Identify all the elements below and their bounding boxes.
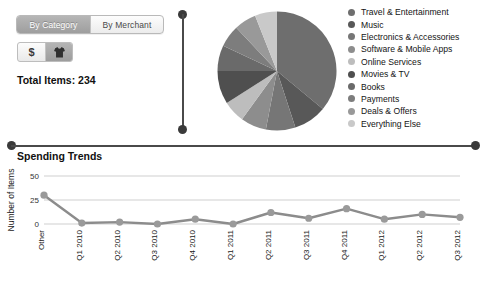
data-point-marker[interactable]	[381, 216, 388, 223]
x-tick-label: Q3 2011	[302, 229, 311, 260]
y-tick-label: 25	[30, 196, 39, 205]
legend-item-label: Books	[361, 82, 385, 92]
legend-swatch-icon	[348, 108, 355, 115]
legend-swatch-icon	[348, 83, 355, 90]
x-tick-label: Q1 2011	[226, 229, 235, 260]
data-point-marker[interactable]	[267, 209, 274, 216]
vertical-divider-knob-bottom[interactable]	[178, 125, 187, 134]
data-point-marker[interactable]	[305, 215, 312, 222]
tab-by-category[interactable]: By Category	[17, 16, 90, 33]
spending-trends-title: Spending Trends	[17, 150, 102, 162]
chart-y-axis-label: Number of Items	[6, 169, 16, 232]
legend-swatch-icon	[348, 95, 355, 102]
legend-swatch-icon	[348, 71, 355, 78]
data-point-marker[interactable]	[192, 216, 199, 223]
data-point-marker[interactable]	[154, 220, 161, 227]
vertical-divider-handle[interactable]	[178, 10, 187, 134]
legend-item-label: Software & Mobile Apps	[361, 44, 452, 54]
x-tick-label: Q4 2011	[340, 229, 349, 260]
x-tick-label: Q1 2012	[377, 229, 386, 260]
legend-item-label: Everything Else	[361, 119, 421, 129]
legend-swatch-icon	[348, 58, 355, 65]
tab-by-merchant[interactable]: By Merchant	[90, 16, 163, 33]
tab-by-merchant-label: By Merchant	[103, 20, 152, 30]
legend-item-label: Movies & TV	[361, 69, 410, 79]
legend-item-label: Deals & Offers	[361, 106, 417, 116]
tab-by-category-label: By Category	[30, 20, 78, 30]
legend-item[interactable]: Software & Mobile Apps	[348, 43, 486, 55]
x-tick-label: Q3 2012	[453, 229, 462, 260]
data-point-marker[interactable]	[419, 211, 426, 218]
pie-legend: Travel & EntertainmentMusicElectronics &…	[348, 6, 486, 130]
chart-y-tick-labels: 02550	[30, 172, 39, 229]
dollar-toggle-button[interactable]: $	[18, 43, 45, 61]
legend-item-label: Travel & Entertainment	[361, 7, 449, 17]
horizontal-divider-bar	[11, 145, 476, 147]
chart-x-tick-labels: OtherQ1 2010Q2 2010Q3 2010Q4 2010Q1 2011…	[37, 229, 462, 260]
spending-trends-line-chart[interactable]: 02550 Number of Items OtherQ1 2010Q2 201…	[0, 166, 487, 281]
data-point-marker[interactable]	[116, 218, 123, 225]
dollar-icon: $	[28, 47, 34, 58]
tshirt-toggle-button[interactable]	[45, 43, 72, 61]
total-items-label: Total Items: 234	[17, 74, 96, 86]
data-point-marker[interactable]	[78, 219, 85, 226]
x-tick-label: Q2 2012	[415, 229, 424, 260]
horizontal-divider-knob-right[interactable]	[471, 141, 480, 150]
legend-item[interactable]: Travel & Entertainment	[348, 6, 486, 18]
view-mode-segmented-control[interactable]: By Category By Merchant	[16, 15, 164, 34]
legend-swatch-icon	[348, 120, 355, 127]
legend-item-label: Payments	[361, 94, 399, 104]
legend-item-label: Music	[361, 20, 383, 30]
data-point-marker[interactable]	[229, 220, 236, 227]
legend-item[interactable]: Online Services	[348, 56, 486, 68]
data-point-marker[interactable]	[456, 214, 463, 221]
y-tick-label: 50	[30, 172, 39, 181]
legend-item[interactable]: Movies & TV	[348, 68, 486, 80]
legend-swatch-icon	[348, 9, 355, 16]
x-tick-label: Q4 2010	[188, 229, 197, 260]
legend-item[interactable]: Everything Else	[348, 118, 486, 130]
x-tick-label: Q2 2010	[113, 229, 122, 260]
legend-item-label: Online Services	[361, 57, 421, 67]
x-tick-label: Other	[37, 230, 46, 250]
legend-swatch-icon	[348, 21, 355, 28]
legend-swatch-icon	[348, 46, 355, 53]
x-tick-label: Q1 2010	[75, 229, 84, 260]
legend-swatch-icon	[348, 33, 355, 40]
legend-item[interactable]: Music	[348, 18, 486, 30]
horizontal-divider-handle[interactable]	[7, 141, 480, 150]
y-tick-label: 0	[35, 220, 40, 229]
data-point-marker[interactable]	[40, 192, 47, 199]
x-tick-label: Q3 2010	[150, 229, 159, 260]
x-tick-label: Q2 2011	[264, 229, 273, 260]
legend-item-label: Electronics & Accessories	[361, 32, 459, 42]
pie-slices	[218, 12, 337, 131]
legend-item[interactable]: Deals & Offers	[348, 105, 486, 117]
data-point-marker[interactable]	[343, 205, 350, 212]
legend-item[interactable]: Payments	[348, 93, 486, 105]
y-axis-title: Number of Items	[6, 169, 16, 232]
metric-icon-toggle[interactable]: $	[17, 42, 73, 62]
tshirt-icon	[53, 46, 66, 59]
category-pie-chart[interactable]	[217, 11, 337, 131]
vertical-divider-bar	[182, 14, 184, 130]
legend-item[interactable]: Electronics & Accessories	[348, 31, 486, 43]
legend-item[interactable]: Books	[348, 80, 486, 92]
